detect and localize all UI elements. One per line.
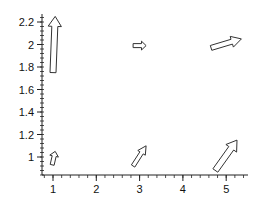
y-tick-label: 1.6 — [19, 84, 34, 96]
vector-arrow-4 — [131, 146, 146, 167]
vector-arrow-1 — [48, 16, 61, 72]
quiver-chart: 11.21.41.61.822.212345 — [0, 0, 263, 209]
y-tick-label: 1.4 — [19, 106, 34, 118]
x-tick-label: 3 — [137, 183, 143, 195]
vector-arrow-6 — [213, 140, 237, 172]
x-tick-label: 2 — [93, 183, 99, 195]
vector-arrow-5 — [210, 36, 241, 50]
x-tick-label: 5 — [223, 183, 229, 195]
y-tick-label: 1 — [28, 151, 34, 163]
arrow-layer — [48, 16, 241, 172]
vector-arrow-2 — [50, 151, 59, 165]
x-tick-label: 4 — [180, 183, 186, 195]
y-tick-label: 1.2 — [19, 129, 34, 141]
y-tick-label: 2 — [28, 39, 34, 51]
vector-arrow-3 — [133, 41, 146, 50]
y-tick-label: 1.8 — [19, 61, 34, 73]
y-tick-label: 2.2 — [19, 16, 34, 28]
x-tick-label: 1 — [50, 183, 56, 195]
